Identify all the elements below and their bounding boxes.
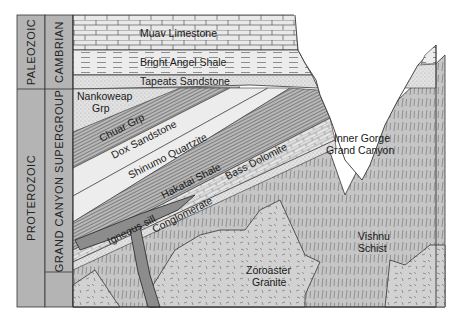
label-inner-gorge: Inner Gorge bbox=[334, 132, 390, 144]
system-grand-canyon-supergroup: GRAND CANYON SUPERGROUP bbox=[45, 89, 73, 272]
system-cambrian: CAMBRIAN bbox=[45, 15, 73, 89]
geologic-cross-section: PALEOZOIC PROTEROZOIC CAMBRIAN GRAND CAN… bbox=[0, 0, 461, 328]
label-muav-limestone: Muav Limestone bbox=[140, 27, 217, 39]
label-zoroaster: Zoroaster bbox=[246, 264, 291, 276]
era-proterozoic: PROTEROZOIC bbox=[17, 89, 45, 307]
label-bright-angel-shale: Bright Angel Shale bbox=[140, 56, 226, 68]
label-nankoweap: Nankoweap bbox=[77, 90, 132, 102]
label-nankoweap-grp: Grp bbox=[92, 102, 110, 114]
label-grand-canyon: Grand Canyon bbox=[326, 144, 394, 156]
label-tapeats-sandstone: Tapeats Sandstone bbox=[140, 75, 230, 87]
era-paleozoic: PALEOZOIC bbox=[17, 15, 45, 89]
label-granite: Granite bbox=[252, 276, 286, 288]
label-vishnu: Vishnu bbox=[358, 230, 390, 242]
label-schist: Schist bbox=[358, 242, 387, 254]
